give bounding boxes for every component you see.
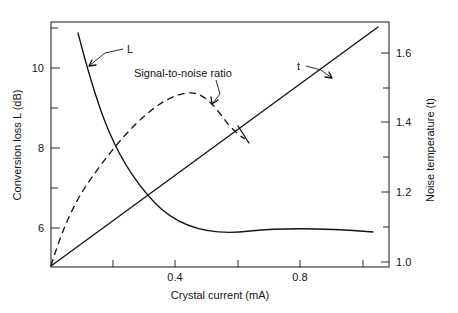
axis-title-group: Conversion loss L (dB) Noise temperature… bbox=[11, 90, 436, 301]
y-axis-left-ticks bbox=[51, 28, 60, 228]
tick-label-group: 10 8 6 1.6 1.4 1.2 1.0 0.4 0.8 bbox=[32, 47, 412, 283]
curve-label-signal-to-noise-ratio: Signal-to-noise ratio bbox=[134, 67, 232, 79]
noise-temperature-line bbox=[51, 27, 378, 266]
y2-tick-label-1-6: 1.6 bbox=[396, 47, 411, 59]
y-tick-label-8: 8 bbox=[38, 142, 44, 154]
y-tick-label-10: 10 bbox=[32, 62, 44, 74]
curve-label-l: L bbox=[127, 43, 133, 55]
y-axis-left-title: Conversion loss L (dB) bbox=[11, 90, 23, 201]
x-tick-label-0-4: 0.4 bbox=[167, 271, 182, 283]
y2-tick-label-1-0: 1.0 bbox=[396, 256, 411, 268]
x-axis-ticks bbox=[113, 260, 363, 267]
y-axis-right-ticks bbox=[381, 53, 389, 262]
chart-canvas: 10 8 6 1.6 1.4 1.2 1.0 0.4 0.8 Conversio… bbox=[0, 0, 458, 313]
x-axis-title: Crystal current (mA) bbox=[171, 289, 269, 301]
leader-line-snr bbox=[212, 80, 220, 104]
y-axis-right-title: Noise temperature (t) bbox=[424, 98, 436, 202]
y2-tick-label-1-2: 1.2 bbox=[396, 186, 411, 198]
y2-tick-label-1-4: 1.4 bbox=[396, 116, 411, 128]
y-tick-label-6: 6 bbox=[38, 222, 44, 234]
curve-label-t: t bbox=[297, 60, 300, 72]
chart-figure: 10 8 6 1.6 1.4 1.2 1.0 0.4 0.8 Conversio… bbox=[0, 0, 458, 313]
signal-to-noise-curve bbox=[51, 93, 245, 266]
x-tick-label-0-8: 0.8 bbox=[292, 271, 307, 283]
leader-line-l bbox=[89, 49, 123, 66]
series-group bbox=[51, 27, 378, 266]
curve-label-group: L Signal-to-noise ratio t bbox=[127, 43, 300, 79]
